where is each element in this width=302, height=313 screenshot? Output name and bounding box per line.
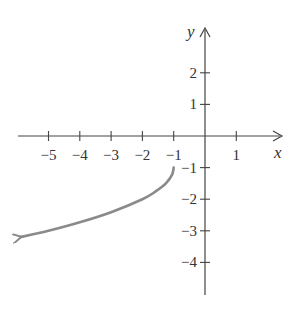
x-tick-label: 1 [233, 147, 241, 163]
y-tick-label: 1 [190, 96, 198, 112]
chart-canvas: −5−4−3−2−11 21−1−2−3−4 x y [0, 0, 302, 313]
x-tick-label: −5 [41, 147, 57, 163]
x-tick-label: −3 [103, 147, 119, 163]
y-tick-label: −2 [181, 191, 197, 207]
x-tick-label: −2 [134, 147, 150, 163]
y-tick-label: 2 [190, 65, 198, 81]
function-curve [20, 168, 173, 238]
y-tick-label: −4 [181, 254, 197, 270]
y-ticks: 21−1−2−3−4 [181, 65, 210, 271]
y-axis-label: y [185, 22, 195, 41]
x-tick-label: −1 [166, 147, 182, 163]
y-tick-label: −3 [181, 223, 197, 239]
y-tick-label: −1 [181, 160, 197, 176]
x-axis-label: x [273, 143, 282, 162]
x-tick-label: −4 [72, 147, 88, 163]
